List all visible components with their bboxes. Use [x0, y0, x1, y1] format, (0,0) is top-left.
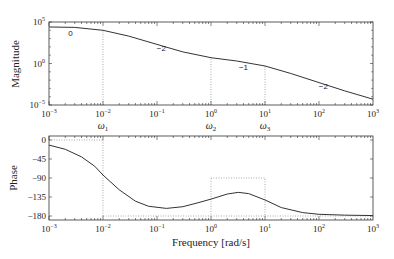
- bode-plot-figure: 10510010−510−310−210−11001011021030−2−1−…: [0, 0, 394, 259]
- slope-annotation: −1: [239, 63, 249, 72]
- frequency-marker-label: ω2: [206, 120, 217, 133]
- x-tick-label: 10−3: [41, 108, 56, 119]
- x-tick-label: 101: [259, 223, 271, 234]
- x-tick-label: 100: [205, 223, 217, 234]
- x-tick-label: 102: [313, 108, 325, 119]
- slope-annotation: −2: [157, 44, 167, 53]
- x-tick-label: 101: [259, 108, 271, 119]
- x-tick-label: 10−3: [41, 223, 56, 234]
- y-tick-label: −90: [32, 173, 47, 183]
- x-tick-label: 103: [367, 223, 379, 234]
- y-tick-label: −135: [27, 192, 46, 202]
- y-tick-label: 105: [33, 16, 45, 27]
- y-tick-label: 0: [42, 135, 47, 145]
- magnitude-panel: 10510010−510−310−210−11001011021030−2−1−…: [30, 16, 379, 133]
- frequency-marker-label: ω1: [98, 120, 109, 133]
- slope-annotation: −2: [319, 82, 329, 91]
- x-tick-label: 10−2: [95, 223, 110, 234]
- x-tick-label: 10−2: [95, 108, 110, 119]
- magnitude-axis-label: Magnitude: [9, 40, 21, 88]
- y-tick-label: −180: [27, 211, 46, 221]
- bode-plot-svg: 10510010−510−310−210−11001011021030−2−1−…: [0, 0, 394, 259]
- x-tick-label: 10−1: [149, 108, 164, 119]
- y-tick-label: −45: [32, 154, 47, 164]
- phase-panel: 0−45−90−135−18010−310−210−1100101102103: [27, 135, 379, 234]
- x-tick-label: 100: [205, 108, 217, 119]
- y-tick-label: 100: [33, 58, 45, 69]
- x-tick-label: 103: [367, 108, 379, 119]
- frequency-axis-label: Frequency [rad/s]: [172, 236, 250, 248]
- x-tick-label: 10−1: [149, 223, 164, 234]
- x-tick-label: 102: [313, 223, 325, 234]
- slope-annotation: 0: [68, 29, 73, 38]
- phase-axis-label: Phase: [7, 165, 19, 191]
- magnitude-axes-frame: [49, 22, 373, 105]
- frequency-marker-label: ω3: [260, 120, 271, 133]
- phase-curve: [49, 145, 373, 216]
